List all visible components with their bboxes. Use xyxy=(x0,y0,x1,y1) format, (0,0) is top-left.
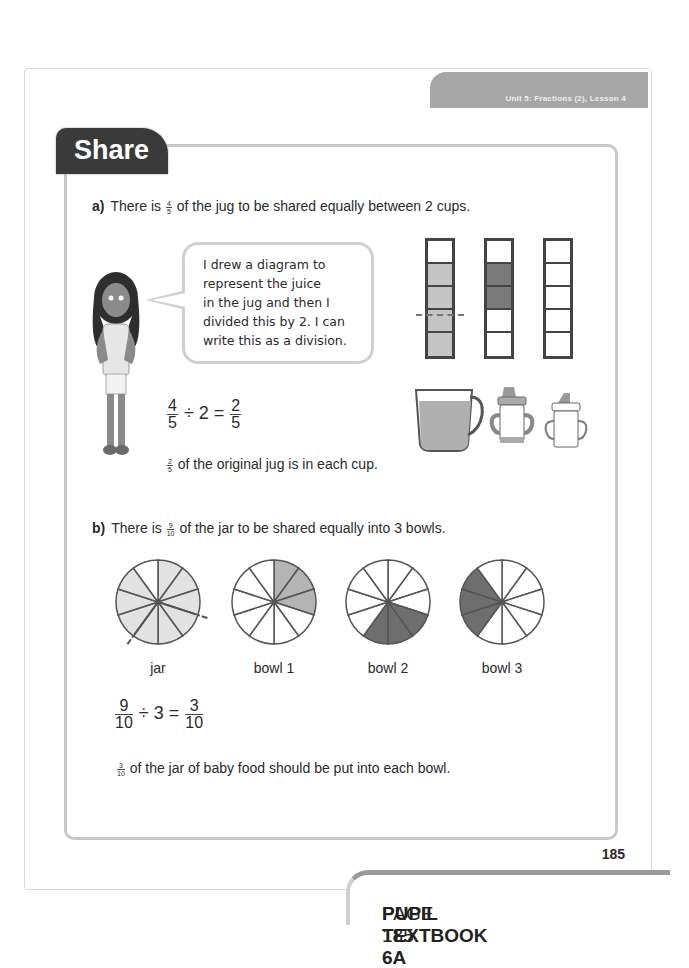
question-a-label: a) xyxy=(92,198,104,214)
equation-a: 45 ÷ 2 = 25 xyxy=(166,398,242,431)
fraction-9-10: 910 xyxy=(167,522,175,537)
unit-lesson-label: Unit 5: Fractions (2), Lesson 4 xyxy=(506,94,626,103)
fraction: 25 xyxy=(230,398,241,431)
pie-bowl-2 xyxy=(346,560,430,644)
question-a: a)There is 45 of the jug to be shared eq… xyxy=(92,198,470,215)
numerator: 2 xyxy=(230,398,241,415)
speech-bubble: I drew a diagram to represent the juice … xyxy=(182,242,374,364)
numerator: 4 xyxy=(167,398,178,415)
fraction-2-5: 25 xyxy=(167,458,173,473)
cup-icon xyxy=(492,387,533,443)
division-dashed-line xyxy=(416,314,464,316)
question-b: b)There is 910 of the jar to be shared e… xyxy=(92,520,446,537)
answer-a: 25 of the original jug is in each cup. xyxy=(166,456,378,473)
speech-line: represent the juice xyxy=(203,276,321,291)
fraction-4-5: 45 xyxy=(166,200,172,215)
jug-and-cups-illustration xyxy=(410,385,590,455)
fraction: 910 xyxy=(115,698,133,731)
speech-bubble-tail-inner xyxy=(152,293,186,307)
operator: ÷ 3 = xyxy=(139,703,179,723)
page-number: 185 xyxy=(602,846,625,862)
fraction-circles xyxy=(100,552,560,652)
speech-line: write this as a division. xyxy=(203,333,347,348)
pie-jar xyxy=(116,560,207,644)
denominator: 5 xyxy=(166,208,172,215)
numerator: 9 xyxy=(167,522,175,530)
question-b-label: b) xyxy=(92,520,105,536)
numerator: 3 xyxy=(117,762,125,770)
footer-page: PAGE 185 xyxy=(382,903,433,947)
jug-bar-model xyxy=(425,238,455,359)
numerator: 3 xyxy=(185,698,203,715)
denominator: 5 xyxy=(167,466,173,473)
cup2-bar-model xyxy=(543,238,573,359)
fraction: 45 xyxy=(167,398,178,431)
fraction: 310 xyxy=(185,698,203,731)
speech-line: I drew a diagram to xyxy=(203,257,325,272)
pie-label-jar: jar xyxy=(118,660,198,676)
answer-b: 310 of the jar of baby food should be pu… xyxy=(116,760,450,777)
section-title: Share xyxy=(74,135,149,166)
operator: ÷ 2 = xyxy=(184,403,224,423)
speech-line: divided this by 2. I can xyxy=(203,314,345,329)
denominator: 5 xyxy=(230,415,241,431)
cup-icon xyxy=(546,393,587,447)
pie-bowl-1 xyxy=(232,560,316,644)
denominator: 5 xyxy=(167,415,178,431)
denominator: 10 xyxy=(117,770,125,777)
speech-line: in the jug and then I xyxy=(203,295,330,310)
pie-label-bowl-2: bowl 2 xyxy=(348,660,428,676)
question-a-post: of the jug to be shared equally between … xyxy=(177,198,470,214)
unit-lesson-tab: Unit 5: Fractions (2), Lesson 4 xyxy=(430,72,648,108)
answer-a-text: of the original jug is in each cup. xyxy=(178,456,378,472)
numerator: 2 xyxy=(167,458,173,466)
pie-label-bowl-1: bowl 1 xyxy=(234,660,314,676)
pie-label-bowl-3: bowl 3 xyxy=(462,660,542,676)
speech-text: I drew a diagram to represent the juice … xyxy=(203,255,347,350)
numerator: 9 xyxy=(115,698,133,715)
pie-bowl-3 xyxy=(460,560,544,644)
section-tab: Share xyxy=(56,128,168,174)
denominator: 10 xyxy=(167,530,175,537)
question-a-pre: There is xyxy=(110,198,161,214)
jug-icon xyxy=(416,390,482,451)
girl-character-icon xyxy=(86,268,146,460)
question-b-post: of the jar to be shared equally into 3 b… xyxy=(179,520,445,536)
equation-b: 910 ÷ 3 = 310 xyxy=(114,698,204,731)
question-b-pre: There is xyxy=(111,520,162,536)
numerator: 4 xyxy=(166,200,172,208)
cup1-bar-model xyxy=(484,238,514,359)
denominator: 10 xyxy=(115,715,133,731)
answer-b-text: of the jar of baby food should be put in… xyxy=(130,760,451,776)
denominator: 10 xyxy=(185,715,203,731)
fraction-3-10: 310 xyxy=(117,762,125,777)
footer-banner: PUPIL TEXTBOOK 6A PAGE 185 xyxy=(346,870,670,925)
